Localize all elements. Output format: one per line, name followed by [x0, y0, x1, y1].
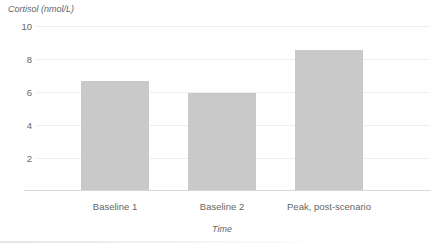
bar-baseline-1 — [81, 81, 149, 190]
y-tick-label-8: 8 — [0, 54, 32, 65]
gridline-10 — [36, 26, 430, 27]
gridline-8 — [36, 59, 430, 60]
y-tick-label-6: 6 — [0, 87, 32, 98]
bar-peak-post-scenario — [295, 50, 363, 190]
y-tick-label-2: 2 — [0, 153, 32, 164]
y-tick-label-10: 10 — [0, 21, 32, 32]
x-tick-label-peak-post-scenario: Peak, post-scenario — [259, 201, 399, 212]
x-axis-title: Time — [152, 224, 292, 234]
x-axis-line — [24, 190, 431, 191]
bar-baseline-2 — [188, 93, 256, 190]
y-tick-label-4: 4 — [0, 120, 32, 131]
cortisol-bar-chart: Cortisol (nmol/L) 10 8 6 4 2 Baseline 1 … — [0, 0, 433, 243]
y-axis-title: Cortisol (nmol/L) — [8, 4, 74, 14]
